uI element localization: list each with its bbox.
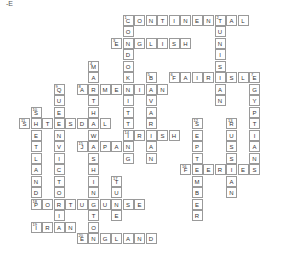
grid-cell[interactable]: A [88,118,99,129]
grid-cell[interactable]: N [123,38,134,49]
grid-cell[interactable]: P [192,141,203,152]
grid-cell[interactable]: 17T [111,176,122,187]
grid-cell[interactable]: A [249,141,260,152]
grid-cell[interactable]: I [169,15,180,26]
grid-cell[interactable]: E [238,164,249,175]
grid-cell[interactable]: R [134,130,145,141]
grid-cell[interactable]: 18P [31,199,42,210]
grid-cell[interactable]: M [192,176,203,187]
grid-cell[interactable]: B [192,187,203,198]
grid-cell[interactable]: I [249,130,260,141]
grid-cell[interactable]: I [146,130,157,141]
grid-cell[interactable]: I [192,72,203,83]
grid-cell[interactable]: G [249,84,260,95]
grid-cell[interactable]: V [146,95,157,106]
grid-cell[interactable]: E [203,164,214,175]
grid-cell[interactable]: E [54,118,65,129]
grid-cell[interactable]: 12S [192,118,203,129]
grid-cell[interactable]: N [88,187,99,198]
grid-cell[interactable]: 19I [31,222,42,233]
grid-cell[interactable]: V [54,141,65,152]
grid-cell[interactable]: 5B [146,72,157,83]
grid-cell[interactable]: 10S [31,107,42,118]
grid-cell[interactable]: E [31,130,42,141]
grid-cell[interactable]: 16F [180,164,191,175]
grid-cell[interactable]: L [31,153,42,164]
grid-cell[interactable]: N [157,84,168,95]
grid-cell[interactable]: O [134,15,145,26]
grid-cell[interactable]: U [54,95,65,106]
grid-cell[interactable]: A [146,107,157,118]
grid-cell[interactable]: N [146,153,157,164]
grid-cell[interactable]: S [215,61,226,72]
grid-cell[interactable]: E [192,15,203,26]
grid-cell[interactable]: T [192,153,203,164]
grid-cell[interactable]: T [88,210,99,221]
grid-cell[interactable]: T [123,118,134,129]
grid-cell[interactable]: E [111,210,122,221]
grid-cell[interactable]: 8A [77,84,88,95]
grid-cell[interactable]: U [226,130,237,141]
grid-cell[interactable]: 6F [169,72,180,83]
grid-cell[interactable]: D [77,118,88,129]
grid-cell[interactable]: O [54,187,65,198]
grid-cell[interactable]: D [146,233,157,244]
grid-cell[interactable]: S [157,130,168,141]
grid-cell[interactable]: N [123,84,134,95]
grid-cell[interactable]: 7E [249,72,260,83]
grid-cell[interactable]: T [88,95,99,106]
grid-cell[interactable]: E [111,84,122,95]
grid-cell[interactable]: T [54,176,65,187]
grid-cell[interactable]: N [203,15,214,26]
grid-cell[interactable]: N [111,199,122,210]
grid-cell[interactable]: R [146,118,157,129]
grid-cell[interactable]: U [111,187,122,198]
grid-cell[interactable]: N [215,95,226,106]
grid-cell[interactable]: A [180,72,191,83]
grid-cell[interactable]: N [226,187,237,198]
grid-cell[interactable]: O [88,222,99,233]
grid-cell[interactable]: 11S [19,118,30,129]
grid-cell[interactable]: E [192,130,203,141]
grid-cell[interactable]: L [100,118,111,129]
grid-cell[interactable]: N [123,141,134,152]
grid-cell[interactable]: Y [249,95,260,106]
grid-cell[interactable]: E [192,199,203,210]
grid-cell[interactable]: N [88,233,99,244]
grid-cell[interactable]: D [31,187,42,198]
grid-cell[interactable]: H [180,38,191,49]
grid-cell[interactable]: R [54,199,65,210]
grid-cell[interactable]: L [238,15,249,26]
grid-cell[interactable]: C [54,164,65,175]
grid-cell[interactable]: U [100,199,111,210]
grid-cell[interactable]: 13R [226,118,237,129]
grid-cell[interactable]: R [192,210,203,221]
grid-cell[interactable]: T [31,141,42,152]
grid-cell[interactable]: P [249,107,260,118]
grid-cell[interactable]: A [226,15,237,26]
grid-cell[interactable]: A [226,176,237,187]
grid-cell[interactable]: S [226,153,237,164]
grid-cell[interactable]: S [249,164,260,175]
grid-cell[interactable]: 9Q [54,84,65,95]
grid-cell[interactable]: 1C [123,15,134,26]
grid-cell[interactable]: A [215,84,226,95]
grid-cell[interactable]: A [146,84,157,95]
grid-cell[interactable]: I [226,164,237,175]
grid-cell[interactable]: H [31,118,42,129]
grid-cell[interactable]: I [215,49,226,60]
grid-cell[interactable]: N [134,233,145,244]
grid-cell[interactable]: 15J [77,141,88,152]
grid-cell[interactable]: 20E [77,233,88,244]
grid-cell[interactable]: O [123,26,134,37]
grid-cell[interactable]: 3E [111,38,122,49]
grid-cell[interactable]: I [123,95,134,106]
grid-cell[interactable]: N [146,15,157,26]
grid-cell[interactable]: A [123,233,134,244]
grid-cell[interactable]: N [215,38,226,49]
grid-cell[interactable]: E [54,107,65,118]
grid-cell[interactable]: A [54,222,65,233]
grid-cell[interactable]: N [249,153,260,164]
grid-cell[interactable]: T [42,118,53,129]
grid-cell[interactable]: L [146,38,157,49]
